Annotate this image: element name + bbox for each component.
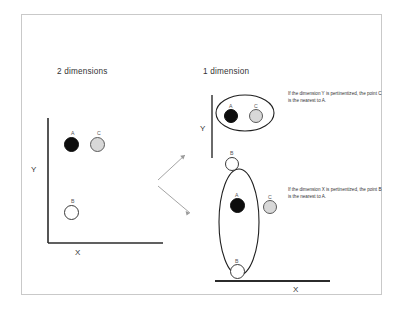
left-axes [48,118,163,243]
annotation-x-dimension: If the dimension X is pertinentized, the… [288,187,384,201]
left-point-label-c: C [97,130,101,136]
right-y-group-point-c [249,109,263,123]
diagram-vector-layer [0,0,403,312]
right-x-group-point-a [230,198,245,213]
left-point-c [90,137,105,152]
right-y-outside-point-b [225,157,239,171]
left-arrows [158,155,190,215]
group-ellipse-x [219,169,259,275]
figure-canvas: 2 dimensions Y X A C B 1 dimension Y X A… [0,0,403,312]
left-point-label-a: A [71,130,74,136]
annotation-y-dimension: If the dimension Y is pertinentized, the… [288,91,384,105]
left-x-axis-label: X [75,248,80,257]
right-x-axis-label: X [293,285,298,294]
panel-title-1d: 1 dimension [203,67,249,76]
left-point-label-b: B [71,198,74,204]
panel-title-2d: 2 dimensions [57,67,108,76]
right-y-outside-label-b: B [230,150,233,156]
left-point-a [64,137,79,152]
right-y-group-point-a [224,109,238,123]
left-y-axis-label: Y [31,165,36,174]
right-x-group-point-b [230,264,245,279]
left-point-b [64,205,79,220]
right-y-axis-label: Y [200,124,205,133]
right-x-outside-point-c [263,200,277,214]
